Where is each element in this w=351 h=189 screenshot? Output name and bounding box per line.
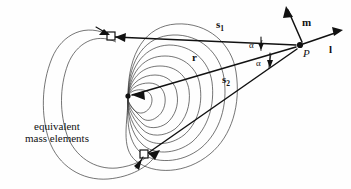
vector-m-arrowhead <box>283 6 293 18</box>
caption-line-1: equivalent <box>9 120 105 132</box>
center-of-mass-dot <box>125 93 130 98</box>
label-angle-alpha-upper: α <box>249 40 254 50</box>
vector-s2 <box>148 49 297 160</box>
vector-s1 <box>115 33 296 45</box>
label-vector-s1-subscript: 1 <box>220 24 224 33</box>
vector-l <box>303 27 343 44</box>
vector-s1-shaft <box>115 37 296 45</box>
caption-equivalent-mass-elements: equivalent mass elements <box>9 120 105 145</box>
contour-ring-2 <box>128 83 165 120</box>
label-angle-alpha-lower: α <box>256 58 261 68</box>
angle-tick-upper-head <box>258 43 264 50</box>
mass-element-upper <box>96 27 115 40</box>
label-vector-r: r <box>192 51 197 63</box>
mass-element-lower-square <box>140 150 148 158</box>
label-vector-l: l <box>329 43 332 55</box>
diagram-canvas: s1 s2 r m l P α α equivalent mass elemen… <box>0 0 351 189</box>
vector-m <box>283 6 302 42</box>
label-vector-s2-subscript: 2 <box>226 79 230 88</box>
contour-ring-6 <box>128 45 213 152</box>
tail-contour-outer <box>43 30 156 179</box>
vector-s2-shaft <box>148 49 297 153</box>
label-vector-s1: s1 <box>216 18 224 34</box>
vector-l-arrowhead <box>332 27 343 36</box>
label-point-p: P <box>303 47 310 59</box>
contour-ring-5 <box>128 56 201 144</box>
vector-l-shaft <box>303 32 338 44</box>
caption-line-2: mass elements <box>9 132 105 144</box>
diagram-vector-layer <box>0 0 351 189</box>
outer-tail-contours <box>43 30 156 179</box>
label-vector-m: m <box>302 16 311 28</box>
label-vector-s2: s2 <box>222 73 230 89</box>
tail-contour-inner <box>62 38 152 168</box>
vector-r <box>132 47 296 100</box>
contour-ring-4 <box>128 66 190 135</box>
vector-s1-arrowhead <box>115 33 126 42</box>
